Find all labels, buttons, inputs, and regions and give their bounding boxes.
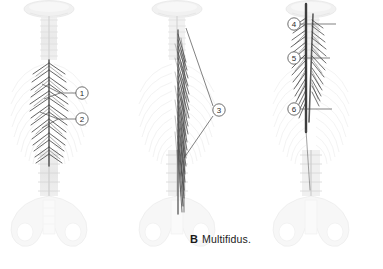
panel-b: BMultifidus.	[128, 0, 256, 248]
panel-a-illustration	[0, 0, 128, 248]
panel-c-illustration	[256, 0, 383, 248]
panel-a	[0, 0, 128, 248]
skull-base-b	[152, 1, 202, 18]
panel-c: CSemispinalis.	[256, 0, 383, 248]
cervical-spine-a	[40, 16, 58, 60]
panel-b-title: Multifidus.	[202, 233, 251, 245]
panel-b-illustration	[128, 0, 256, 248]
lumbar-spine-c	[300, 150, 322, 196]
panel-b-letter: B	[190, 233, 198, 245]
skull-base-a	[24, 1, 74, 18]
skull-base-c	[286, 1, 336, 18]
pelvis-a	[11, 196, 87, 246]
panel-b-caption: BMultifidus.	[190, 233, 251, 245]
pelvis-c	[273, 196, 349, 246]
anatomy-figure: BMultifidus.	[0, 0, 383, 269]
